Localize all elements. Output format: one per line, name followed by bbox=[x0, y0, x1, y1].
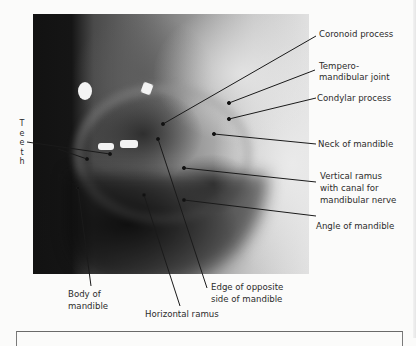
label-letter: e bbox=[18, 138, 26, 148]
label-text: mandible bbox=[68, 300, 108, 312]
label-text: Condylar process bbox=[317, 93, 391, 104]
label-text: Edge of opposite bbox=[211, 281, 283, 293]
leader-condylar-process bbox=[229, 98, 316, 119]
label-text: side of mandible bbox=[211, 293, 283, 305]
label-angle-of-mandible: Angle of mandible bbox=[316, 221, 394, 232]
leader-horizontal-ramus bbox=[144, 195, 180, 306]
label-text: Angle of mandible bbox=[316, 221, 394, 232]
label-horizontal-ramus: Horizontal ramus bbox=[145, 309, 219, 320]
label-condylar-process: Condylar process bbox=[317, 93, 391, 104]
leader-neck bbox=[214, 134, 316, 144]
label-body-of-mandible: Body of mandible bbox=[68, 288, 108, 312]
label-tmj: Tempero- mandibular joint bbox=[319, 61, 390, 83]
label-text: Vertical ramus bbox=[320, 170, 396, 182]
label-text: Coronoid process bbox=[319, 29, 393, 40]
label-letter: h bbox=[18, 157, 26, 167]
label-text: with canal for bbox=[320, 182, 396, 194]
label-teeth: T e e t h bbox=[18, 119, 26, 167]
leader-edge-opposite bbox=[158, 139, 207, 288]
caption-box bbox=[16, 331, 403, 346]
label-text: Horizontal ramus bbox=[145, 309, 219, 320]
label-letter: e bbox=[18, 129, 26, 139]
label-neck-of-mandible: Neck of mandible bbox=[318, 139, 393, 150]
leader-body bbox=[78, 188, 91, 286]
label-text: mandibular joint bbox=[319, 72, 390, 83]
label-text: Body of bbox=[68, 288, 108, 300]
leader-vertical-ramus bbox=[184, 168, 316, 182]
label-text: Neck of mandible bbox=[318, 139, 393, 150]
label-letter: T bbox=[18, 119, 26, 129]
leader-tmj bbox=[229, 70, 315, 103]
label-letter: t bbox=[18, 148, 26, 158]
label-edge-opposite-side: Edge of opposite side of mandible bbox=[211, 281, 283, 305]
label-text: mandibular nerve bbox=[320, 194, 396, 206]
label-coronoid-process: Coronoid process bbox=[319, 29, 393, 40]
leader-coronoid-process bbox=[163, 36, 316, 124]
label-text: Tempero- bbox=[319, 61, 390, 72]
leader-angle bbox=[184, 200, 316, 216]
label-vertical-ramus: Vertical ramus with canal for mandibular… bbox=[320, 170, 396, 206]
